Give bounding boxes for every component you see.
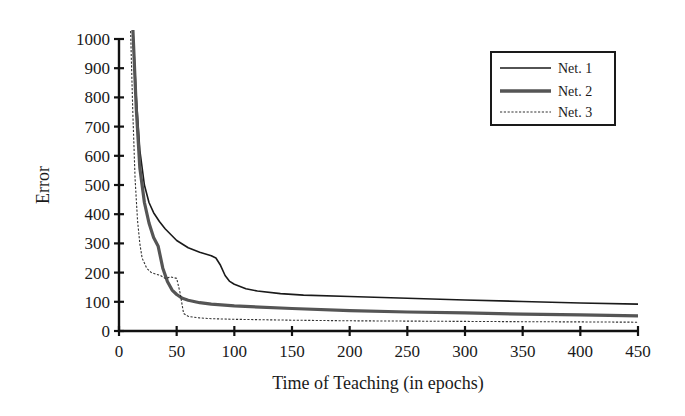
x-tick-label: 250 [395,342,421,361]
x-tick-label: 350 [510,342,536,361]
legend-box [491,52,615,125]
y-tick-label: 600 [85,147,111,166]
y-tick-label: 0 [102,322,111,341]
x-tick-label: 0 [115,342,124,361]
y-tick-label: 100 [85,293,111,312]
legend: Net. 1 Net. 2 Net. 3 [491,52,615,125]
legend-label-net1: Net. 1 [558,61,592,76]
y-tick-label: 900 [85,59,111,78]
y-tick-label: 400 [85,205,111,224]
line-chart: 050100150200250300350400450 010020030040… [0,0,685,416]
y-tick-label: 700 [85,118,111,137]
legend-label-net3: Net. 3 [558,105,592,120]
y-tick-label: 800 [85,88,111,107]
y-axis-ticks: 01002003004005006007008009001000 [76,30,124,341]
x-tick-label: 50 [168,342,185,361]
y-tick-label: 200 [85,264,111,283]
x-axis-title: Time of Teaching (in epochs) [272,373,484,394]
y-axis-title: Error [33,166,53,204]
y-tick-label: 1000 [76,30,110,49]
x-tick-label: 300 [452,342,478,361]
x-tick-label: 100 [222,342,248,361]
x-tick-label: 150 [279,342,305,361]
x-tick-label: 400 [568,342,594,361]
legend-label-net2: Net. 2 [558,84,592,99]
x-tick-label: 200 [337,342,363,361]
x-tick-label: 450 [625,342,651,361]
y-tick-label: 500 [85,176,111,195]
y-tick-label: 300 [85,234,111,253]
